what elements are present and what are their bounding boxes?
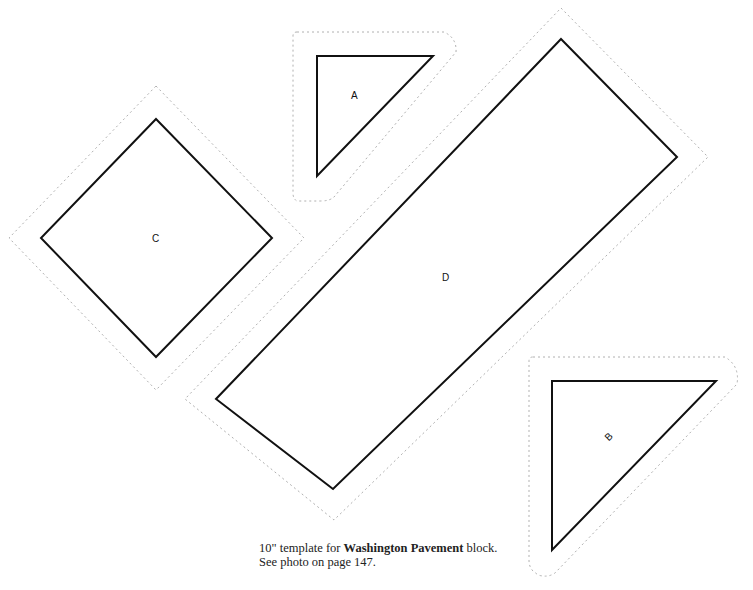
piece-c: C	[9, 86, 304, 390]
piece-b: B	[529, 357, 738, 576]
caption-line-2: See photo on page 147.	[259, 555, 497, 569]
piece-a-sewing-line	[317, 56, 433, 176]
template-sheet: D A C B	[0, 0, 753, 590]
block-name: Washington Pavement	[344, 541, 464, 555]
caption-line-1: 10" template for Washington Pavement blo…	[259, 541, 497, 555]
piece-a-label: A	[351, 90, 358, 101]
piece-c-label: C	[152, 233, 159, 244]
piece-b-sewing-line	[552, 381, 716, 550]
piece-d-label: D	[442, 272, 449, 283]
template-caption: 10" template for Washington Pavement blo…	[259, 541, 497, 569]
